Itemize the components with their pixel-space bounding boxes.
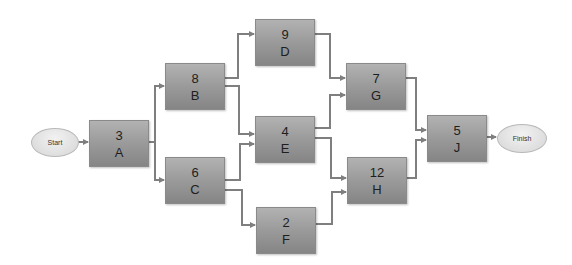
node-e: 4 E — [255, 116, 315, 163]
node-id: B — [191, 87, 200, 104]
node-id: H — [372, 181, 381, 198]
node-f: 2 F — [256, 207, 316, 254]
node-duration: 8 — [191, 70, 198, 87]
node-g: 7 G — [346, 63, 406, 110]
node-duration: 6 — [191, 164, 198, 181]
node-id: G — [371, 87, 381, 104]
node-id: C — [190, 181, 199, 198]
node-d: 9 D — [255, 19, 315, 66]
start-node: Start — [31, 128, 79, 157]
node-id: J — [454, 139, 461, 156]
edge-c-f — [223, 190, 255, 225]
node-duration: 4 — [281, 123, 288, 140]
node-duration: 5 — [453, 122, 460, 139]
node-duration: 9 — [281, 26, 288, 43]
edge-a-c — [155, 142, 164, 180]
edge-d-g — [313, 34, 345, 78]
edge-c-e — [223, 144, 254, 180]
node-duration: 12 — [370, 164, 384, 181]
node-id: F — [282, 231, 290, 248]
start-label: Start — [48, 139, 63, 146]
node-duration: 3 — [115, 127, 122, 144]
node-c: 6 C — [165, 157, 225, 204]
node-id: D — [280, 43, 289, 60]
edge-h-j — [405, 140, 426, 178]
node-b: 8 B — [165, 63, 225, 110]
finish-label: Finish — [513, 135, 532, 142]
finish-node: Finish — [497, 124, 547, 153]
node-j: 5 J — [427, 115, 487, 162]
edge-e-g — [313, 95, 345, 128]
edge-b-e — [223, 86, 254, 134]
node-duration: 2 — [282, 214, 289, 231]
node-a: 3 A — [89, 120, 149, 167]
edge-a-b — [148, 86, 164, 142]
edge-b-d — [223, 34, 254, 78]
edge-e-h — [313, 138, 346, 178]
node-h: 12 H — [347, 157, 407, 204]
node-id: A — [115, 144, 124, 161]
edge-g-j — [404, 78, 426, 130]
edge-f-h — [315, 192, 346, 224]
node-id: E — [281, 140, 290, 157]
node-duration: 7 — [372, 70, 379, 87]
